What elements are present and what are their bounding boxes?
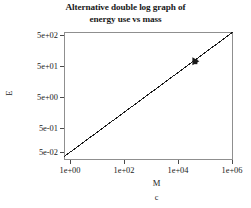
y-tick-mark bbox=[60, 128, 64, 129]
x-axis-label: M bbox=[31, 178, 251, 188]
x-tick-mark bbox=[232, 160, 233, 164]
y-tick-label: 5e+01 bbox=[0, 62, 58, 71]
x-tick-mark bbox=[178, 160, 179, 164]
y-tick-label: 5e+02 bbox=[0, 31, 58, 40]
y-tick-mark bbox=[60, 35, 64, 36]
plot-area bbox=[64, 32, 233, 160]
y-tick-mark bbox=[60, 97, 64, 98]
x-tick-label: 1e+04 bbox=[148, 166, 208, 175]
x-tick-label: 1e+02 bbox=[94, 166, 154, 175]
figure-caption: c bbox=[31, 193, 251, 202]
x-tick-mark bbox=[124, 160, 125, 164]
y-tick-mark bbox=[60, 152, 64, 153]
y-axis-label: E bbox=[4, 73, 14, 113]
chart-figure: Alternative double log graph of energy u… bbox=[0, 0, 251, 208]
chart-title-line-2: energy use vs mass bbox=[0, 14, 251, 26]
chart-title: Alternative double log graph of energy u… bbox=[0, 2, 251, 25]
x-tick-label: 1e+00 bbox=[40, 166, 100, 175]
y-tick-label: 5e-01 bbox=[0, 124, 58, 133]
y-tick-mark bbox=[60, 66, 64, 67]
x-tick-mark bbox=[70, 160, 71, 164]
y-tick-label: 5e-02 bbox=[0, 148, 58, 157]
x-tick-label: 1e+06 bbox=[202, 166, 251, 175]
chart-title-line-1: Alternative double log graph of bbox=[0, 2, 251, 14]
